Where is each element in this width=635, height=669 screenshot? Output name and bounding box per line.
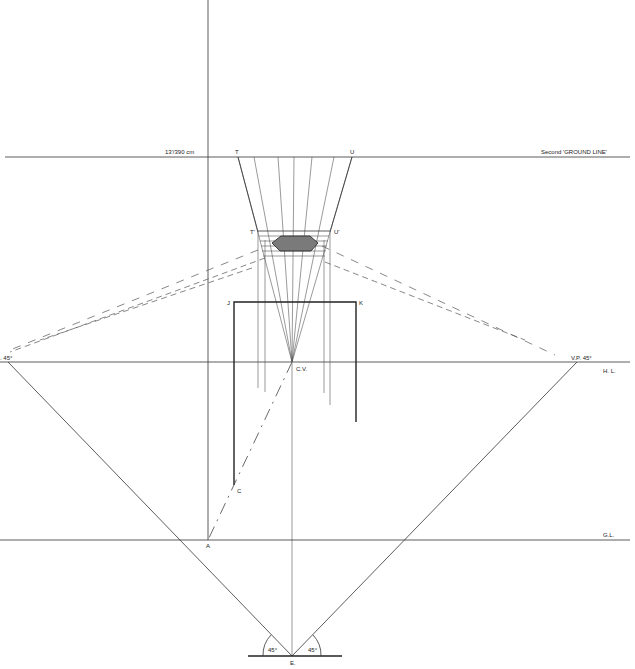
label-vp-left: . 45° bbox=[0, 355, 13, 361]
label-angle-right: 45° bbox=[308, 647, 318, 653]
perspective-diagram: 13'/390 cm Second 'GROUND LINE' T U T' U… bbox=[0, 0, 635, 669]
dashed-to-right-vp-2 bbox=[325, 262, 525, 340]
label-t: T bbox=[235, 149, 239, 155]
label-j: J bbox=[227, 300, 230, 306]
label-vp-right: V.P. 45° bbox=[571, 355, 592, 361]
vertical-drops bbox=[258, 232, 330, 405]
label-angle-left: 45° bbox=[268, 647, 278, 653]
converging-lines bbox=[238, 157, 352, 362]
label-hl: H. L. bbox=[603, 368, 616, 374]
cv-to-a-dashed bbox=[208, 362, 292, 540]
right-45-line bbox=[292, 362, 577, 656]
label-cv: C.V. bbox=[296, 366, 307, 372]
label-a: A bbox=[206, 543, 210, 549]
label-c: C bbox=[237, 488, 242, 494]
label-gl: G.L. bbox=[603, 532, 615, 538]
shaded-object bbox=[272, 236, 318, 251]
line-u bbox=[330, 157, 352, 232]
label-e: E. bbox=[290, 660, 296, 666]
label-t-prime: T' bbox=[250, 229, 255, 235]
dashed-to-right-vp-1 bbox=[322, 246, 555, 355]
label-u-prime: U' bbox=[334, 229, 339, 235]
label-second-ground-line: Second 'GROUND LINE' bbox=[541, 149, 607, 155]
left-45-line bbox=[8, 362, 292, 656]
label-u: U bbox=[350, 149, 354, 155]
dashed-to-left-vp-3 bbox=[40, 268, 252, 340]
dashed-to-left-vp-1 bbox=[10, 250, 258, 350]
label-height-mark: 13'/390 cm bbox=[165, 149, 194, 155]
line-t bbox=[238, 157, 258, 232]
label-k: K bbox=[359, 300, 363, 306]
